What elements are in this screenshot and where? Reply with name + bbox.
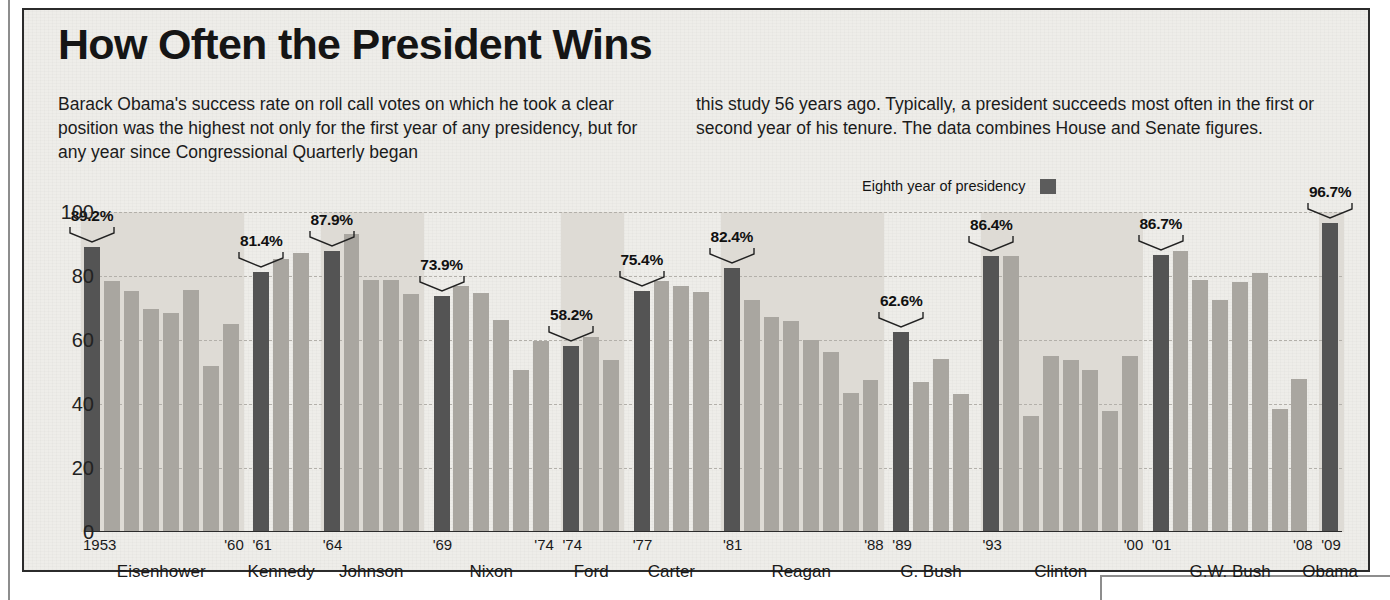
y-tick-60: 60 — [48, 329, 94, 352]
bar — [673, 286, 689, 532]
bar — [1291, 379, 1307, 532]
bar — [1232, 282, 1248, 532]
bar — [1212, 300, 1228, 532]
bar — [764, 317, 780, 532]
infographic-frame: How Often the President Wins Barack Obam… — [22, 8, 1370, 572]
y-tick-20: 20 — [48, 457, 94, 480]
bar — [654, 281, 670, 532]
x-year-start: '77 — [633, 536, 653, 553]
president-label: Reagan — [771, 562, 831, 582]
bar — [293, 253, 309, 532]
bar — [1043, 356, 1059, 532]
bar — [933, 359, 949, 532]
president-label: Kennedy — [248, 562, 315, 582]
bar — [863, 380, 879, 532]
bar — [783, 321, 799, 532]
president-label: Nixon — [469, 562, 512, 582]
president-label: G. Bush — [900, 562, 961, 582]
x-axis-line — [84, 531, 1342, 532]
bar — [1173, 251, 1189, 532]
deck-column-1: Barack Obama's success rate on roll call… — [58, 92, 658, 164]
bar — [583, 337, 599, 532]
page-title: How Often the President Wins — [58, 20, 652, 69]
bar — [363, 280, 379, 532]
bar — [744, 300, 760, 532]
bar — [223, 324, 239, 532]
page-rule-left — [8, 0, 10, 600]
bar — [124, 291, 140, 532]
bar — [1192, 280, 1208, 532]
gridline-100 — [84, 212, 1342, 213]
bar — [324, 251, 340, 532]
bar — [104, 281, 120, 532]
callout-value: 96.7% — [1307, 183, 1353, 201]
bar — [84, 247, 100, 532]
y-tick-100: 100 — [48, 201, 94, 224]
bar — [163, 313, 179, 532]
bar — [1102, 411, 1118, 532]
x-year-end: '74 — [534, 536, 554, 553]
x-year-end: '08 — [1293, 536, 1313, 553]
x-year-start: '69 — [433, 536, 453, 553]
bar-chart: 89.2%81.4%87.9%73.9%58.2%75.4%82.4%62.6%… — [38, 196, 1358, 556]
bar — [693, 292, 709, 532]
bar — [493, 320, 509, 532]
bar — [513, 370, 529, 532]
bar — [953, 394, 969, 532]
bar — [843, 393, 859, 532]
x-year-start: '89 — [892, 536, 912, 553]
bar — [434, 296, 450, 532]
y-tick-80: 80 — [48, 265, 94, 288]
page-rule-vertical — [1100, 575, 1102, 600]
legend-label: Eighth year of presidency — [862, 178, 1026, 194]
infographic-page: ODERN PRESTIGE HIDE, NOW How Often the P… — [0, 0, 1390, 600]
plot-area: 89.2%81.4%87.9%73.9%58.2%75.4%82.4%62.6%… — [84, 212, 1342, 532]
x-year-start: '93 — [982, 536, 1002, 553]
bar — [893, 332, 909, 532]
bar — [1003, 256, 1019, 532]
bar — [983, 256, 999, 532]
bar — [253, 272, 269, 532]
bar — [634, 291, 650, 532]
y-tick-40: 40 — [48, 393, 94, 416]
bar — [1322, 223, 1338, 532]
bar — [803, 340, 819, 532]
bar — [383, 280, 399, 532]
x-year-start: '81 — [723, 536, 743, 553]
x-year-end: '00 — [1124, 536, 1144, 553]
bar — [203, 366, 219, 532]
bar — [403, 294, 419, 532]
president-label: Obama — [1302, 562, 1358, 582]
x-year-start: '09 — [1321, 536, 1341, 553]
x-year-start: 1953 — [83, 536, 116, 553]
president-label: Johnson — [339, 562, 403, 582]
bar — [453, 286, 469, 532]
bar — [473, 293, 489, 532]
x-year-start: '01 — [1152, 536, 1172, 553]
bar — [1023, 416, 1039, 532]
deck-column-2: this study 56 years ago. Typically, a pr… — [696, 92, 1336, 140]
bar — [1122, 356, 1138, 532]
x-year-start: '74 — [562, 536, 582, 553]
bar — [913, 382, 929, 532]
bar — [1082, 370, 1098, 532]
bar — [823, 352, 839, 532]
bar — [273, 259, 289, 532]
x-year-end: '60 — [224, 536, 244, 553]
bar — [563, 346, 579, 532]
legend-swatch-icon — [1040, 179, 1056, 194]
bar — [1252, 273, 1268, 532]
bar — [1272, 409, 1288, 532]
x-year-end: '88 — [864, 536, 884, 553]
bar — [724, 268, 740, 532]
president-label: Eisenhower — [117, 562, 206, 582]
x-year-start: '61 — [252, 536, 272, 553]
bar — [143, 309, 159, 532]
bar — [1063, 360, 1079, 532]
president-label: Clinton — [1034, 562, 1087, 582]
president-label: Ford — [574, 562, 609, 582]
chart-legend: Eighth year of presidency — [862, 178, 1056, 194]
president-label: Carter — [648, 562, 695, 582]
bar — [603, 360, 619, 532]
x-year-start: '64 — [323, 536, 343, 553]
